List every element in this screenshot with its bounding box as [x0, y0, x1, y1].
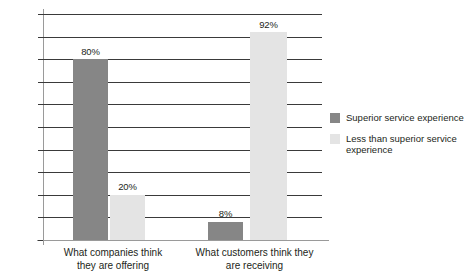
bar-customers-less-than-superior[interactable] [250, 32, 287, 240]
legend-label: Less than superior service experience [346, 133, 473, 156]
y-tick [38, 172, 43, 173]
category-label-customers: What customers think they are receiving [182, 247, 327, 272]
y-tick [38, 150, 43, 151]
legend-item-superior[interactable]: Superior service experience [330, 112, 473, 124]
legend-swatch-icon [330, 113, 340, 123]
plot-area: 80% 20% 8% 92% [43, 14, 322, 240]
bar-customers-superior[interactable] [208, 222, 243, 240]
category-label-line: What companies think [43, 247, 183, 260]
y-tick [38, 59, 43, 60]
y-tick [38, 217, 43, 218]
legend-label: Superior service experience [346, 112, 464, 124]
category-label-line: are receiving [182, 260, 327, 273]
bar-value-label: 20% [110, 182, 145, 192]
y-tick [38, 14, 43, 15]
legend-swatch-icon [330, 134, 340, 144]
category-label-companies: What companies think they are offering [43, 247, 183, 272]
x-axis-line [37, 240, 329, 241]
bar-value-label: 80% [73, 47, 108, 57]
y-tick [38, 82, 43, 83]
bar-value-label: 92% [250, 20, 287, 30]
bar-value-label: 8% [208, 209, 243, 219]
bar-chart: 100% 90% 80% 70% 60% 50% 40% 30% 20% 10%… [0, 0, 473, 280]
y-tick [38, 127, 43, 128]
y-tick [38, 240, 43, 241]
bar-companies-less-than-superior[interactable] [110, 195, 145, 240]
legend: Superior service experience Less than su… [330, 112, 473, 165]
gridline-100 [43, 14, 322, 15]
category-label-line: What customers think they [182, 247, 327, 260]
y-tick [38, 37, 43, 38]
y-tick [38, 104, 43, 105]
legend-item-less-than-superior[interactable]: Less than superior service experience [330, 133, 473, 156]
bar-companies-superior[interactable] [73, 59, 108, 240]
category-label-line: they are offering [43, 260, 183, 273]
y-tick [38, 195, 43, 196]
